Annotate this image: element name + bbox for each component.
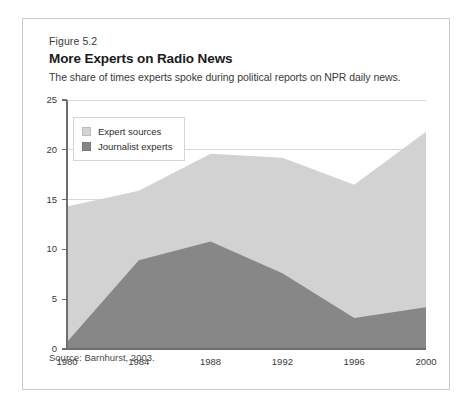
xtick-label-1996: 1996 — [332, 356, 376, 367]
legend-label-expert-sources: Expert sources — [98, 126, 161, 137]
chart-legend: Expert sources Journalist experts — [73, 117, 185, 161]
figure-source: Source: Barnhurst, 2003. — [49, 352, 155, 363]
ytick-label-10: 10 — [33, 243, 57, 254]
legend-swatch-expert-sources — [82, 127, 91, 136]
ytick-label-20: 20 — [33, 144, 57, 155]
figure-container: Figure 5.2 More Experts on Radio News Th… — [22, 18, 450, 390]
legend-item-expert-sources[interactable]: Expert sources — [82, 124, 172, 139]
xtick-label-1992: 1992 — [260, 356, 304, 367]
ytick-label-15: 15 — [33, 194, 57, 205]
chart-svg — [23, 19, 451, 391]
legend-swatch-journalist-experts — [82, 142, 91, 151]
ytick-label-5: 5 — [33, 293, 57, 304]
xtick-label-1988: 1988 — [189, 356, 233, 367]
xtick-label-2000: 2000 — [404, 356, 448, 367]
chart-plot-area: Expert sources Journalist experts 051015… — [23, 19, 451, 391]
legend-item-journalist-experts[interactable]: Journalist experts — [82, 139, 172, 154]
legend-label-journalist-experts: Journalist experts — [98, 141, 172, 152]
ytick-label-25: 25 — [33, 94, 57, 105]
